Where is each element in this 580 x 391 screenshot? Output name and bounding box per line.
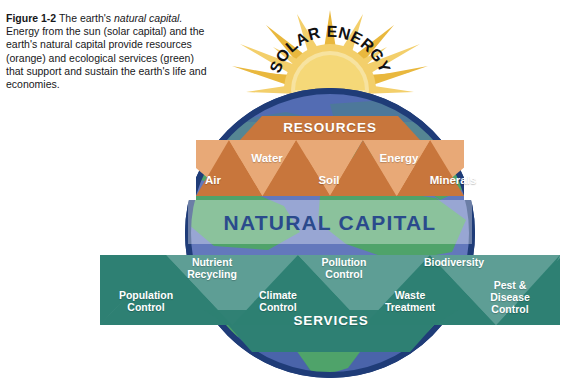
resources-band [240, 116, 420, 140]
figure-natural-capital: Figure 1-2 The earth's natural capital. … [0, 0, 580, 391]
natural-capital-band [188, 200, 472, 244]
diagram-canvas: SOLAR ENERGY [0, 0, 580, 391]
resources-triangles [0, 136, 580, 200]
